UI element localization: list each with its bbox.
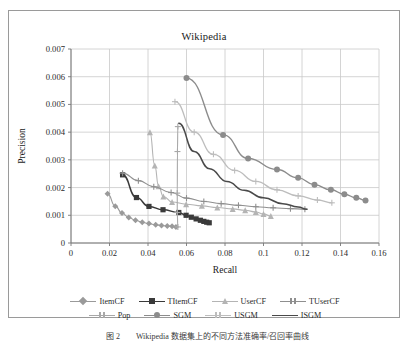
legend-swatch-isgm bbox=[272, 310, 298, 320]
legend-row-2: PopSGMUSGMISGM bbox=[9, 308, 401, 322]
legend-marker-plus-icon bbox=[99, 312, 105, 318]
data-point-marker bbox=[158, 223, 164, 229]
data-point-marker bbox=[270, 205, 276, 211]
figure-caption: 图 2 Wikipedia 数据集上的不同方法准确率/召回率曲线 bbox=[0, 330, 415, 344]
data-point-marker bbox=[189, 215, 194, 220]
chart-legend: ItemCFTItemCFUserCFTUserCFPopSGMUSGMISGM bbox=[9, 294, 401, 322]
x-tick-label: 0.04 bbox=[140, 248, 156, 258]
data-point-marker bbox=[220, 132, 226, 138]
series-line bbox=[150, 132, 271, 216]
legend-item-isgm[interactable]: ISGM bbox=[272, 310, 321, 320]
data-point-marker bbox=[341, 191, 347, 197]
series-usercf bbox=[147, 129, 274, 219]
legend-item-itemcf[interactable]: ItemCF bbox=[70, 296, 124, 306]
legend-item-pop[interactable]: Pop bbox=[89, 310, 131, 320]
data-point-marker bbox=[135, 178, 141, 184]
legend-item-usercf[interactable]: UserCF bbox=[212, 296, 266, 306]
data-point-marker bbox=[295, 175, 301, 181]
legend-item-tusercf[interactable]: TUserCF bbox=[280, 296, 339, 306]
data-point-marker bbox=[312, 182, 318, 188]
data-point-marker bbox=[160, 207, 165, 212]
data-point-marker bbox=[175, 124, 181, 130]
x-tick-label: 0.06 bbox=[179, 248, 195, 258]
legend-marker-triangle-icon bbox=[222, 298, 228, 304]
data-point-marker bbox=[253, 178, 259, 184]
x-tick-label: 0.12 bbox=[294, 248, 309, 258]
y-tick-label: 0 bbox=[61, 238, 65, 248]
y-tick-label: 0.005 bbox=[46, 99, 65, 109]
data-point-marker bbox=[328, 187, 334, 193]
y-tick-label: 0.004 bbox=[46, 127, 66, 137]
x-tick-label: 0 bbox=[69, 248, 73, 258]
y-tick-label: 0.001 bbox=[46, 210, 65, 220]
figure-frame: Wikipedia 00.0010.0020.0030.0040.0050.00… bbox=[8, 10, 400, 318]
series-isgm bbox=[179, 123, 307, 209]
legend-item-usgm[interactable]: USGM bbox=[205, 310, 258, 320]
data-point-marker bbox=[184, 195, 190, 201]
legend-swatch-usgm bbox=[205, 310, 231, 320]
series-line bbox=[187, 78, 366, 201]
legend-label: USGM bbox=[234, 311, 258, 320]
x-axis-title: Recall bbox=[213, 265, 238, 275]
legend-row-1: ItemCFTItemCFUserCFTUserCF bbox=[9, 294, 401, 308]
y-axis-title: Precision bbox=[17, 128, 27, 164]
legend-marker-plus-icon bbox=[215, 312, 221, 318]
series-line bbox=[179, 123, 307, 209]
legend-swatch-sgm bbox=[144, 310, 170, 320]
data-point-marker bbox=[174, 149, 180, 155]
legend-line-icon bbox=[272, 315, 298, 317]
series-group bbox=[105, 75, 369, 230]
legend-swatch-pop bbox=[89, 310, 115, 320]
legend-label: TItemCF bbox=[168, 297, 198, 306]
data-point-marker bbox=[146, 221, 152, 227]
y-tick-label: 0.007 bbox=[46, 44, 66, 54]
data-point-marker bbox=[168, 190, 174, 196]
legend-label: ItemCF bbox=[99, 297, 124, 306]
y-tick-label: 0.006 bbox=[46, 72, 66, 82]
legend-swatch-itemcf bbox=[70, 296, 96, 306]
x-tick-label: 0.08 bbox=[217, 248, 232, 258]
data-point-marker bbox=[184, 213, 189, 218]
data-point-marker bbox=[253, 204, 259, 210]
data-point-marker bbox=[146, 204, 151, 209]
data-point-marker bbox=[245, 155, 251, 161]
data-point-marker bbox=[295, 193, 301, 199]
legend-label: Pop bbox=[118, 311, 131, 320]
data-point-marker bbox=[274, 167, 280, 173]
data-point-marker bbox=[139, 219, 145, 225]
data-point-marker bbox=[153, 222, 159, 228]
legend-item-sgm[interactable]: SGM bbox=[144, 310, 191, 320]
legend-marker-plus-icon bbox=[290, 298, 296, 304]
data-point-marker bbox=[132, 217, 138, 223]
legend-label: TUserCF bbox=[309, 297, 339, 306]
legend-item-titemcf[interactable]: TItemCF bbox=[139, 296, 198, 306]
data-point-marker bbox=[210, 151, 216, 157]
legend-marker-diamond-icon bbox=[79, 297, 87, 305]
data-point-marker bbox=[235, 202, 241, 208]
data-point-marker bbox=[353, 195, 359, 201]
data-point-marker bbox=[134, 195, 139, 200]
precision-recall-chart: 00.0010.0020.0030.0040.0050.0060.00700.0… bbox=[9, 11, 401, 319]
data-point-marker bbox=[152, 162, 158, 168]
legend-marker-square-icon bbox=[149, 298, 155, 304]
legend-label: ISGM bbox=[301, 311, 321, 320]
y-tick-label: 0.002 bbox=[46, 183, 65, 193]
legend-label: SGM bbox=[173, 311, 191, 320]
x-tick-label: 0.02 bbox=[102, 248, 117, 258]
x-tick-label: 0.16 bbox=[371, 248, 387, 258]
data-point-marker bbox=[218, 201, 224, 207]
data-point-marker bbox=[329, 200, 335, 206]
chart-plot-area: 00.0010.0020.0030.0040.0050.0060.00700.0… bbox=[9, 11, 401, 319]
data-point-marker bbox=[172, 99, 178, 105]
legend-marker-circle-icon bbox=[154, 312, 160, 318]
legend-swatch-titemcf bbox=[139, 296, 165, 306]
legend-swatch-usercf bbox=[212, 296, 238, 306]
data-point-marker bbox=[314, 197, 320, 203]
data-point-marker bbox=[363, 198, 369, 204]
x-tick-label: 0.14 bbox=[333, 248, 349, 258]
x-tick-label: 0.1 bbox=[258, 248, 269, 258]
series-line bbox=[123, 173, 305, 209]
data-point-marker bbox=[184, 75, 190, 81]
data-point-marker bbox=[191, 129, 197, 135]
legend-label: UserCF bbox=[241, 297, 266, 306]
